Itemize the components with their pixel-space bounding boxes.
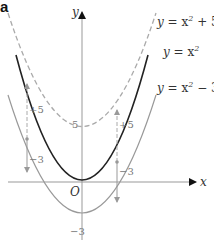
y-axis-label: y [71,5,79,19]
shift-up-label-left: +5 [29,104,44,115]
shift-up-label-right: +5 [119,119,134,130]
y-tick-minus-3: −3 [70,226,85,237]
shift-down-label-left: −3 [29,154,44,165]
graph-canvas: a x y O 5 −3 +5 −3 +5 −3 y = x2 + 5 y = … [0,0,214,244]
graph-figure: a x y O 5 −3 +5 −3 +5 −3 y = x2 + 5 y = … [0,0,214,244]
figure-tag: a [0,0,9,15]
x-axis-label: x [200,175,207,189]
label-x2-minus-3: y = x2 − 3 [156,80,214,95]
origin-label: O [70,185,80,199]
label-x2-plus-5: y = x2 + 5 [156,14,214,29]
label-x2: y = x2 [162,44,199,59]
shift-down-label-right: −3 [119,166,134,177]
